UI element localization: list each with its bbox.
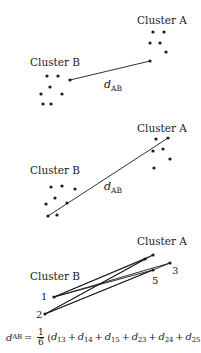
cluster-b-point [73,187,76,190]
formula-term-subscript: 25 [192,336,201,344]
cluster-a-point [161,147,164,150]
formula-equals: = [24,332,32,343]
cluster-b-label: Cluster B [30,164,80,176]
formula-term-subscript: 24 [165,336,174,344]
formula-term-subscript: 23 [138,336,147,344]
diagram-canvas: Cluster A Cluster B dAB Cluster A Cluste… [0,0,201,353]
formula-lhs-subscript: AB [12,333,22,341]
point-number-label: 3 [172,265,178,276]
distance-label: dAB [104,180,122,195]
cluster-a-point [151,253,154,256]
formula-plus: + [68,331,76,342]
formula-plus: + [175,331,183,342]
cluster-b-point [52,295,55,298]
cluster-b-point [65,201,68,204]
formula-fraction: 1 6 [37,328,44,347]
cluster-b-label: Cluster B [30,56,80,68]
cluster-a-point [168,157,171,160]
formula-plus: + [148,331,156,342]
point-number-label: 5 [152,275,158,286]
cluster-b-point [60,184,63,187]
point-number-label: 2 [36,309,42,320]
average-linkage-formula: dAB = 1 6 ( d13+d14+d15+d23+d24+d25+d26 … [6,326,201,348]
cluster-a-point [151,30,154,33]
cluster-b-label: Cluster B [30,270,80,282]
panel-complete-linkage: Cluster A Cluster B dAB [30,122,187,218]
formula-term-subscript: 15 [111,336,120,344]
formula-term-subscript: 14 [84,336,93,344]
formula-terms: d13+d14+d15+d23+d24+d25+d26 [51,331,201,344]
point-number-label: 1 [41,291,47,302]
fraction-numerator: 1 [38,328,44,337]
cluster-b-point [49,185,52,188]
formula-term-subscript: 13 [57,336,66,344]
cluster-points [39,30,167,105]
cluster-b-point [68,78,71,81]
cluster-b-point [53,196,56,199]
panel-average-linkage: 1235 Cluster A Cluster B [30,235,187,320]
cluster-b-point [41,102,44,105]
formula-plus: + [121,331,129,342]
linkage-line [48,138,168,216]
cluster-a-label: Cluster A [137,235,187,247]
formula-plus: + [95,331,103,342]
panel-single-linkage: Cluster A Cluster B dAB [30,14,187,106]
cluster-a-point [158,41,161,44]
distance-label: dAB [104,78,122,93]
cluster-a-point [148,41,151,44]
cluster-a-point [151,149,154,152]
cluster-a-point [148,59,151,62]
cluster-b-point [46,214,49,217]
cluster-a-point [151,268,154,271]
cluster-b-point [49,102,52,105]
cluster-b-point [48,85,51,88]
linkage-line [45,255,153,314]
cluster-a-label: Cluster A [137,14,187,26]
cluster-b-point [56,74,59,77]
cluster-a-label: Cluster A [137,122,187,134]
cluster-b-point [45,74,48,77]
cluster-a-point [152,166,155,169]
cluster-b-point [60,92,63,95]
cluster-a-point [143,257,146,260]
cluster-a-point [154,137,157,140]
cluster-b-point [39,92,42,95]
linkage-lines [48,138,168,216]
cluster-b-point [44,202,47,205]
cluster-b-point [43,312,46,315]
cluster-a-point [164,50,167,53]
fraction-denominator: 6 [38,338,44,347]
cluster-a-point [166,136,169,139]
cluster-a-point [162,30,165,33]
cluster-b-point [55,213,58,216]
cluster-linkage-diagram: Cluster A Cluster B dAB Cluster A Cluste… [0,0,201,353]
